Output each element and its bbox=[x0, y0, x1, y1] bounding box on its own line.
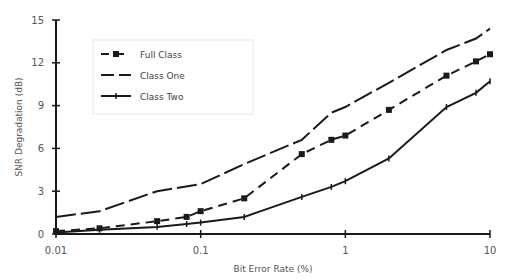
data-point bbox=[473, 58, 479, 64]
y-tick-label: 3 bbox=[38, 186, 44, 197]
x-tick-label: 10 bbox=[484, 245, 497, 256]
data-point bbox=[184, 214, 190, 220]
data-point bbox=[241, 195, 247, 201]
data-point bbox=[328, 137, 334, 143]
legend: Full ClassClass OneClass Two bbox=[93, 40, 253, 114]
x-axis-title: Bit Error Rate (%) bbox=[234, 264, 313, 274]
data-point bbox=[198, 208, 204, 214]
y-tick-label: 6 bbox=[38, 143, 44, 154]
data-point bbox=[386, 107, 392, 113]
y-tick-label: 12 bbox=[31, 57, 44, 68]
x-tick-label: 1 bbox=[342, 245, 348, 256]
chart: 03691215 0.010.1110 SNR Degradation (dB)… bbox=[0, 0, 512, 280]
y-tick-label: 0 bbox=[38, 229, 44, 240]
x-tick-label: 0.01 bbox=[45, 245, 67, 256]
legend-label: Class Two bbox=[140, 92, 184, 102]
data-point bbox=[342, 133, 348, 139]
data-point bbox=[299, 151, 305, 157]
data-point bbox=[487, 51, 493, 57]
data-point bbox=[443, 73, 449, 79]
legend-label: Class One bbox=[140, 71, 185, 81]
y-axis-title: SNR Degradation (dB) bbox=[14, 77, 24, 176]
y-tick-label: 9 bbox=[38, 100, 44, 111]
x-tick-label: 0.1 bbox=[193, 245, 209, 256]
data-point bbox=[154, 218, 160, 224]
legend-label: Full Class bbox=[140, 50, 182, 60]
legend-marker bbox=[113, 51, 119, 57]
y-tick-label: 15 bbox=[31, 15, 44, 26]
